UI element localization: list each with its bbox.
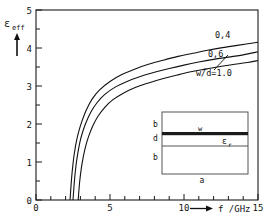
y-tick-label: 3 (27, 82, 32, 92)
y-axis-ticks (36, 10, 42, 200)
y-axis-title-symbol: ε (4, 18, 10, 29)
y-tick-label: 5 (27, 6, 32, 16)
x-axis-title-label: f /GHz (218, 204, 251, 214)
inset-label-a: a (200, 176, 205, 185)
x-axis-arrow-icon (190, 206, 213, 212)
curve-label-06: 0,6 (208, 49, 223, 59)
inset-label-d: d (153, 134, 158, 143)
y-axis-title: ε eff (4, 18, 25, 56)
curve-label-wd: w/d=1.0 (196, 68, 232, 78)
y-axis-title-subscript: eff (12, 24, 25, 32)
chart-figure: 0 1 2 3 4 5 0 5 10 15 ε eff f /GHz (0, 0, 273, 219)
y-tick-labels: 0 1 2 3 4 5 (27, 6, 32, 206)
inset-label-epsilon: ε (222, 137, 227, 146)
x-tick-label: 5 (107, 203, 112, 213)
x-axis-ticks (36, 194, 258, 200)
y-tick-label: 2 (27, 120, 32, 130)
x-tick-label: 0 (33, 203, 38, 213)
inset-waveguide-cross-section: b d b a w ε r (153, 112, 248, 185)
inset-label-b-bottom: b (153, 153, 158, 162)
curve-label-04: 0,4 (215, 30, 230, 40)
x-tick-label: 10 (179, 203, 190, 213)
inset-label-epsilon-subscript: r (228, 141, 232, 148)
curve-annotations: 0,4 0,6 w/d=1.0 (196, 30, 232, 78)
y-tick-label: 4 (27, 44, 32, 54)
inset-label-b-top: b (153, 120, 158, 129)
y-tick-label: 0 (27, 196, 32, 206)
y-axis-arrow-icon (14, 33, 20, 56)
x-tick-label: 15 (253, 203, 264, 213)
y-tick-label: 1 (27, 158, 32, 168)
x-axis-title: f /GHz (190, 204, 251, 214)
